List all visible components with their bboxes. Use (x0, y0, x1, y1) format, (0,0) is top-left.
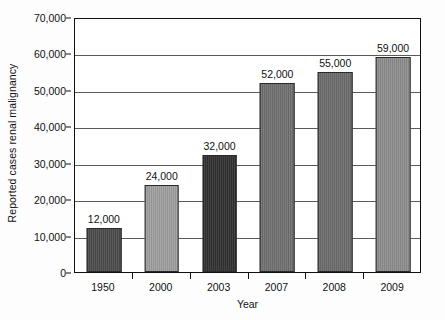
bar-value-label: 55,000 (319, 57, 351, 69)
bar-value-label: 32,000 (204, 140, 236, 152)
x-tick-mark (248, 273, 249, 279)
y-tick-mark (66, 163, 71, 164)
bar[interactable] (318, 72, 353, 272)
y-tick-mark (66, 236, 71, 237)
x-axis-tick-marks (74, 273, 421, 281)
x-tick-mark (305, 273, 306, 279)
bar[interactable] (144, 185, 179, 272)
y-axis-title: Reported cases renal malignancy (0, 0, 24, 285)
x-axis-title: Year (74, 298, 421, 310)
y-axis-tick-labels: 010,00020,00030,00040,00050,00060,00070,… (22, 0, 70, 320)
bar-slot: 12,000 (75, 19, 133, 272)
x-tick-label: 1950 (91, 281, 114, 293)
y-axis-title-text: Reported cases renal malignancy (6, 63, 18, 222)
bar-value-label: 24,000 (146, 170, 178, 182)
bar-slot: 24,000 (133, 19, 191, 272)
x-tick-mark (132, 273, 133, 279)
bar-slot: 55,000 (306, 19, 364, 272)
y-tick-mark (66, 54, 71, 55)
bar-value-label: 59,000 (377, 42, 409, 54)
x-tick-mark (363, 273, 364, 279)
x-tick-mark (190, 273, 191, 279)
y-tick-label: 60,000 (34, 48, 66, 60)
bar[interactable] (202, 155, 237, 272)
bar-value-label: 52,000 (261, 68, 293, 80)
x-axis-tick-labels: 195020002003200720082009 (74, 281, 421, 297)
x-tick-label: 2008 (323, 281, 346, 293)
y-tick-mark (66, 127, 71, 128)
y-tick-mark (66, 90, 71, 91)
y-tick-mark (66, 18, 71, 19)
bar[interactable] (376, 57, 411, 272)
bar-chart: Reported cases renal malignancy 010,0002… (0, 0, 445, 320)
y-tick-label: 50,000 (34, 85, 66, 97)
bar-slot: 32,000 (191, 19, 249, 272)
bar[interactable] (260, 83, 295, 272)
bar-slot: 52,000 (249, 19, 307, 272)
bar-value-label: 12,000 (88, 213, 120, 225)
x-tick-label: 2003 (207, 281, 230, 293)
bar-slot: 59,000 (364, 19, 422, 272)
y-tick-label: 20,000 (34, 194, 66, 206)
bar[interactable] (87, 228, 122, 272)
bars-layer: 12,00024,00032,00052,00055,00059,000 (75, 19, 420, 272)
y-tick-mark (66, 200, 71, 201)
y-tick-label: 30,000 (34, 158, 66, 170)
y-tick-label: 10,000 (34, 231, 66, 243)
y-tick-mark (66, 273, 71, 274)
x-tick-label: 2000 (149, 281, 172, 293)
plot-area: 12,00024,00032,00052,00055,00059,000 (74, 18, 421, 273)
y-tick-label: 70,000 (34, 12, 66, 24)
x-tick-label: 2007 (265, 281, 288, 293)
x-tick-label: 2009 (380, 281, 403, 293)
y-tick-label: 40,000 (34, 121, 66, 133)
